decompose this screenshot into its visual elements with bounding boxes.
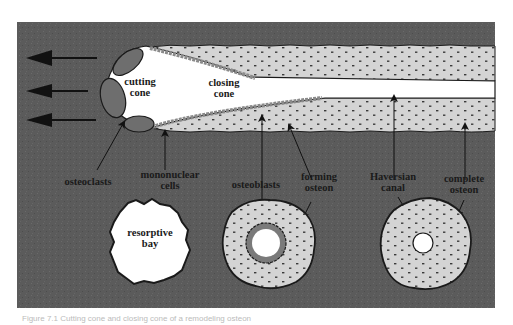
complete-osteon-label-2: osteon	[450, 184, 479, 195]
mononuclear-cells-label: mononuclear	[141, 169, 200, 180]
haversian-canal-label: Haversian	[370, 171, 416, 182]
complete-osteon	[381, 198, 471, 289]
cutting-cone-label: cutting	[124, 76, 156, 87]
figure-caption: Figure 7.1 Cutting cone and closing cone…	[22, 314, 251, 323]
mononuclear-cells-label-2: cells	[160, 180, 179, 191]
closing-cone-label-2: cone	[214, 88, 235, 99]
forming-osteon-label: forming	[301, 171, 338, 182]
osteoclasts-label: osteoclasts	[64, 176, 111, 187]
forming-osteon	[223, 200, 315, 289]
resorptive-bay-label-2: bay	[142, 238, 159, 249]
haversian-canal	[413, 233, 433, 253]
osteoblasts-label: osteoblasts	[232, 179, 280, 190]
haversian-canal-label-2: canal	[381, 182, 405, 193]
complete-osteon-label: complete	[444, 173, 485, 184]
cutting-cone-label-2: cone	[130, 87, 151, 98]
closing-cone-label: closing	[209, 77, 241, 88]
forming-osteon-label-2: osteon	[305, 182, 334, 193]
bone-remodeling-diagram: cutting cone closing cone osteoclasts mo…	[0, 0, 513, 325]
resorptive-bay-label: resorptive	[127, 227, 173, 238]
